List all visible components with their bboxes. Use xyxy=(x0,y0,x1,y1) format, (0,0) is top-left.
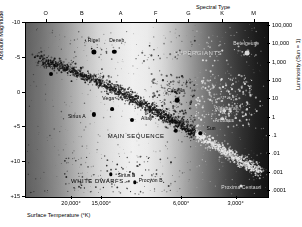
axis-tick xyxy=(267,135,270,136)
region-label: MAIN SEQUENCE xyxy=(108,133,165,139)
axis-tick xyxy=(22,22,25,23)
axis-tick-label: .01 xyxy=(272,150,280,156)
star-marker xyxy=(130,118,134,122)
axis-tick-label: 100,000 xyxy=(272,22,292,28)
axis-tick-label: O xyxy=(43,10,47,16)
axis-tick-label: M xyxy=(251,10,256,16)
star-label: Capella xyxy=(167,87,185,92)
axis-tick-label: A xyxy=(119,10,123,16)
axis-tick xyxy=(267,117,270,118)
axis-tick xyxy=(101,196,102,199)
star-label: Procyon B xyxy=(139,177,163,182)
axis-tick-label: 100 xyxy=(272,77,281,83)
star-marker xyxy=(49,72,53,76)
axis-tick-label: +15 xyxy=(11,193,21,199)
axis-tick-label: -10 xyxy=(12,19,20,25)
axis-tick-label: 0 xyxy=(17,89,20,95)
axis-tick-label: 15,000° xyxy=(92,200,111,206)
axis-tick xyxy=(22,126,25,127)
star-marker xyxy=(110,107,114,111)
axis-tick xyxy=(236,196,237,199)
star-label: Sun xyxy=(207,126,216,131)
spectral-type-axis-title: Spectral Type xyxy=(196,4,230,10)
axis-tick xyxy=(22,92,25,93)
axis-tick xyxy=(267,190,270,191)
axis-tick xyxy=(121,19,122,22)
star-label: Altair xyxy=(141,115,153,120)
axis-tick xyxy=(267,172,270,173)
axis-tick xyxy=(254,19,255,22)
axis-tick xyxy=(82,19,83,22)
region-label: SUPERGIANTS xyxy=(174,50,223,56)
axis-tick-label: F xyxy=(154,10,157,16)
axis-tick xyxy=(222,19,223,22)
axis-tick-label: 3,000° xyxy=(227,200,243,206)
axis-tick xyxy=(267,25,270,26)
hr-diagram-figure: Spectral Type Absolute Magnitude Luminos… xyxy=(0,0,302,227)
surface-temperature-axis-title: Surface Temperature (°K) xyxy=(27,212,90,218)
axis-tick-label: G xyxy=(186,10,190,16)
star-marker xyxy=(245,51,250,56)
axis-tick-label: .1 xyxy=(272,132,277,138)
axis-tick xyxy=(71,196,72,199)
axis-tick xyxy=(267,62,270,63)
axis-tick-label: 20,000° xyxy=(61,200,80,206)
star-label: Proxima Centauri xyxy=(221,185,261,190)
star-label: Aldebaran xyxy=(215,106,239,111)
star-label: Betelgeuse xyxy=(233,41,259,46)
plot-area: RigelDenebSpicaBetelgeuseCapellaVegaSiri… xyxy=(25,22,269,198)
axis-tick-label: 10,000 xyxy=(272,40,289,46)
axis-tick xyxy=(267,43,270,44)
star-label: Vega xyxy=(102,95,114,100)
axis-tick-label: .0001 xyxy=(272,187,286,193)
star-label: Procyon A xyxy=(165,119,189,124)
luminosity-axis-title: Luminosity (Sun = 1) xyxy=(295,39,301,90)
axis-tick xyxy=(267,80,270,81)
star-label: Arcturus xyxy=(215,117,234,122)
star-marker xyxy=(175,98,180,103)
axis-tick-label: +5 xyxy=(14,123,20,129)
axis-tick xyxy=(46,19,47,22)
absolute-magnitude-axis-title: Absolute Magnitude xyxy=(0,11,4,60)
axis-tick-label: .001 xyxy=(272,169,283,175)
axis-tick-label: 6,000° xyxy=(173,200,189,206)
star-label: Deneb xyxy=(109,38,124,43)
axis-tick xyxy=(267,153,270,154)
star-label: Spica xyxy=(42,62,55,67)
axis-tick-label: B xyxy=(80,10,84,16)
axis-tick-label: 10 xyxy=(272,95,278,101)
axis-tick xyxy=(156,19,157,22)
axis-tick xyxy=(267,98,270,99)
star-label: Sirius A xyxy=(68,114,86,119)
axis-tick xyxy=(188,19,189,22)
axis-tick xyxy=(22,161,25,162)
axis-tick-label: 1,000 xyxy=(272,59,286,65)
axis-tick xyxy=(22,57,25,58)
axis-tick-label: K xyxy=(220,10,224,16)
axis-tick-label: 1 xyxy=(272,114,275,120)
axis-tick-label: +10 xyxy=(11,158,21,164)
axis-tick-label: -5 xyxy=(15,54,20,60)
star-label: Rigel xyxy=(88,38,100,43)
star-label: Sirius B xyxy=(117,173,135,178)
axis-tick xyxy=(181,196,182,199)
axis-tick xyxy=(22,196,25,197)
region-label: WHITE DWARFS xyxy=(71,178,124,184)
